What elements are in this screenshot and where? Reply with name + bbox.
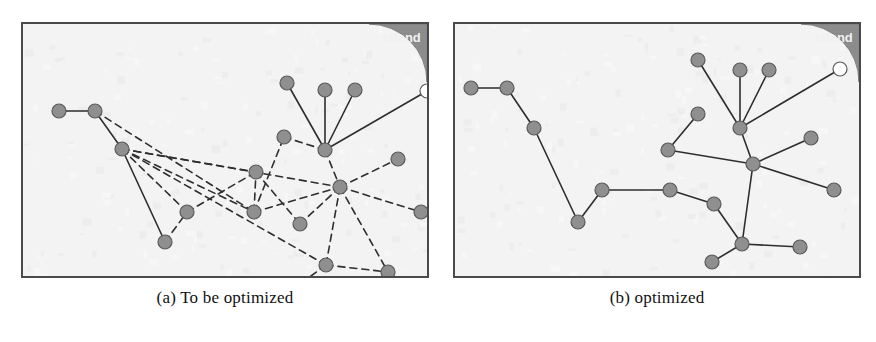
node[interactable]	[391, 152, 405, 166]
node[interactable]	[277, 130, 291, 144]
node[interactable]	[180, 205, 194, 219]
node[interactable]	[414, 205, 427, 219]
panel-texture	[24, 27, 427, 276]
node[interactable]	[571, 215, 585, 229]
edge-solid	[753, 138, 811, 164]
node-layer	[464, 53, 847, 269]
node[interactable]	[793, 240, 807, 254]
edge-dashed	[122, 149, 254, 212]
node[interactable]	[707, 197, 721, 211]
edge-solid	[122, 149, 165, 242]
node[interactable]	[464, 81, 478, 95]
node[interactable]	[733, 121, 747, 135]
panel-a-graph: Island	[23, 24, 427, 276]
node[interactable]	[663, 183, 677, 197]
node[interactable]	[247, 205, 261, 219]
panel-optimized: Island	[453, 22, 861, 278]
node[interactable]	[52, 104, 66, 118]
figure-network-optimization: Island (a) To be optimized Island (b) op…	[0, 0, 876, 342]
node[interactable]	[595, 183, 609, 197]
node[interactable]	[746, 157, 760, 171]
node[interactable]	[500, 81, 514, 95]
node[interactable]	[661, 143, 675, 157]
node[interactable]	[804, 131, 818, 145]
node[interactable]	[115, 142, 129, 156]
island-label: Island	[815, 30, 853, 45]
edge-dashed	[340, 159, 398, 187]
node[interactable]	[319, 258, 333, 272]
node[interactable]	[158, 235, 172, 249]
node[interactable]	[88, 104, 102, 118]
node-layer	[52, 76, 427, 276]
node[interactable]	[827, 183, 841, 197]
edge-dashed	[95, 111, 254, 212]
edge-dashed	[256, 172, 300, 224]
edge-solid	[753, 164, 834, 190]
edge-solid	[668, 150, 753, 164]
island-label: Island	[383, 30, 421, 45]
node[interactable]	[733, 63, 747, 77]
node[interactable]	[318, 143, 332, 157]
node[interactable]	[280, 76, 294, 90]
node[interactable]	[691, 53, 705, 67]
panel-b-graph: Island	[455, 24, 859, 276]
edge-layer	[59, 83, 427, 276]
node[interactable]	[333, 180, 347, 194]
node[interactable]	[691, 107, 705, 121]
node[interactable]	[735, 237, 749, 251]
panel-texture	[458, 25, 859, 276]
node[interactable]	[348, 83, 362, 97]
panel-to-be-optimized: Island	[21, 22, 429, 278]
edge-solid	[742, 164, 753, 244]
node[interactable]	[705, 255, 719, 269]
node[interactable]	[318, 83, 332, 97]
caption-panel-b: (b) optimized	[453, 288, 861, 308]
node[interactable]	[381, 265, 395, 276]
node[interactable]	[762, 63, 776, 77]
node[interactable]	[293, 217, 307, 231]
edge-dashed	[326, 265, 388, 272]
node-hollow[interactable]	[833, 62, 847, 76]
node[interactable]	[527, 121, 541, 135]
caption-panel-a: (a) To be optimized	[21, 288, 429, 308]
node[interactable]	[249, 165, 263, 179]
